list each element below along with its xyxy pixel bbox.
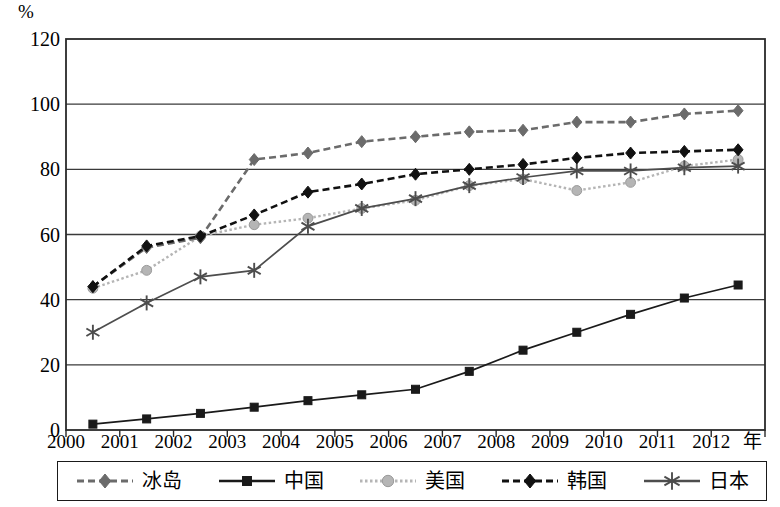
data-series-group [86, 105, 744, 428]
x-tick-2010: 2010 [585, 432, 623, 451]
legend-marker-asterisk-icon [642, 471, 702, 491]
legend-label: 中国 [284, 471, 324, 491]
legend-marker-diamond-icon [500, 471, 560, 491]
legend-item-日本[interactable]: 日本 [642, 471, 749, 491]
x-tick-2007: 2007 [423, 432, 461, 451]
x-tick-2001: 2001 [101, 432, 139, 451]
x-tick-2000: 2000 [47, 432, 85, 451]
x-axis-unit-label: 年 [743, 432, 762, 451]
series-中国 [89, 281, 742, 428]
x-tick-2008: 2008 [477, 432, 515, 451]
x-tick-2004: 2004 [262, 432, 300, 451]
legend-marker-circle-icon [358, 471, 418, 491]
x-tick-2012: 2012 [692, 432, 730, 451]
legend-item-美国[interactable]: 美国 [358, 471, 465, 491]
legend-label: 韩国 [567, 471, 607, 491]
chart-page: % 120100806040200 2000200120022003200420… [0, 0, 780, 507]
legend-label: 美国 [425, 471, 465, 491]
legend-item-中国[interactable]: 中国 [217, 471, 324, 491]
x-tick-2009: 2009 [531, 432, 569, 451]
legend-marker-diamond-icon [75, 471, 135, 491]
x-tick-2003: 2003 [208, 432, 246, 451]
chart-legend: 冰岛中国美国韩国日本 [57, 461, 767, 501]
x-tick-2011: 2011 [639, 432, 676, 451]
legend-marker-square-icon [217, 471, 277, 491]
legend-label: 冰岛 [142, 471, 182, 491]
x-tick-2002: 2002 [155, 432, 193, 451]
legend-item-冰岛[interactable]: 冰岛 [75, 471, 182, 491]
legend-item-韩国[interactable]: 韩国 [500, 471, 607, 491]
series-日本 [86, 159, 744, 340]
series-韩国 [88, 144, 743, 293]
x-tick-2005: 2005 [316, 432, 354, 451]
legend-label: 日本 [709, 471, 749, 491]
x-tick-2006: 2006 [370, 432, 408, 451]
